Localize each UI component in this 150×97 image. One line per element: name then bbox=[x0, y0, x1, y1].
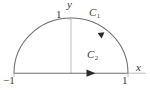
curve-label-c2: C2 bbox=[87, 49, 98, 61]
curve-label-c1: C1 bbox=[89, 7, 100, 19]
x-tick-label-one: 1 bbox=[122, 75, 128, 86]
curve-label-c2-subscript: 2 bbox=[94, 54, 98, 61]
curve-label-c1-subscript: 1 bbox=[96, 12, 100, 19]
contour-plot-canvas bbox=[0, 0, 150, 97]
x-tick-label-neg-one: −1 bbox=[3, 75, 15, 86]
segment-arrowhead-icon bbox=[87, 70, 96, 77]
x-axis-label: x bbox=[136, 62, 141, 73]
arc-arrowhead-icon bbox=[98, 32, 105, 38]
semicircle-contour-figure: y 1 C1 C2 −1 1 x bbox=[0, 0, 150, 97]
y-tick-label-one: 1 bbox=[56, 9, 62, 20]
y-axis-label: y bbox=[67, 0, 72, 10]
